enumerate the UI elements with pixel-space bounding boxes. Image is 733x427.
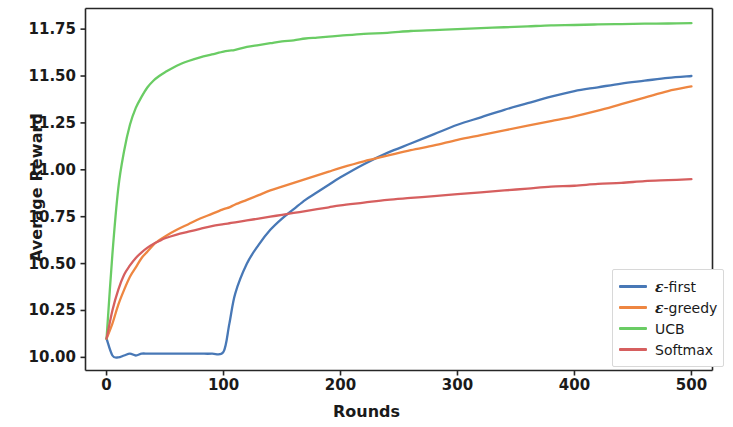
legend-label: ε-first: [655, 279, 696, 295]
legend-color-swatch: [619, 285, 647, 288]
chart-legend: ε-firstε-greedyUCBSoftmax: [612, 269, 724, 367]
legend-item[interactable]: UCB: [619, 318, 717, 339]
x-tick-label: 200: [301, 376, 381, 394]
legend-item[interactable]: ε-greedy: [619, 297, 717, 318]
legend-label: Softmax: [655, 342, 713, 358]
legend-color-swatch: [619, 327, 647, 330]
y-axis-label: Average Reward: [27, 78, 46, 298]
y-tick-label: 10.25: [18, 301, 76, 319]
legend-color-swatch: [619, 306, 647, 309]
y-tick-label: 10.00: [18, 348, 76, 366]
legend-color-swatch: [619, 348, 647, 351]
chart-figure: 10.0010.2510.5010.7511.0011.2511.5011.75…: [0, 0, 733, 427]
legend-label: UCB: [655, 321, 685, 337]
legend-label: ε-greedy: [655, 300, 717, 316]
x-tick-label: 500: [651, 376, 731, 394]
x-tick-label: 400: [534, 376, 614, 394]
x-tick-label: 0: [67, 376, 147, 394]
legend-item[interactable]: ε-first: [619, 276, 717, 297]
x-tick-label: 100: [184, 376, 264, 394]
y-tick-label: 11.75: [18, 20, 76, 38]
x-tick-label: 300: [417, 376, 497, 394]
legend-item[interactable]: Softmax: [619, 339, 717, 360]
x-axis-label: Rounds: [0, 402, 733, 421]
